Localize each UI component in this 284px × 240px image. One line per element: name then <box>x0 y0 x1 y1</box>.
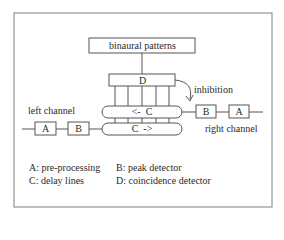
right-a-label: A <box>229 106 249 117</box>
binaural-patterns-label: binaural patterns <box>89 40 196 51</box>
legend-item-d: D: coincidence detector <box>116 175 211 186</box>
right-b-label: B <box>196 106 216 117</box>
delay-line-top-label: <- C <box>102 106 182 117</box>
legend-item-a: A: pre-processing <box>29 162 100 173</box>
right-channel-label: right channel <box>205 123 257 134</box>
legend-item-c: C: delay lines <box>29 175 84 186</box>
inhibition-label: inhibition <box>194 84 233 95</box>
coincidence-detector-label: D <box>109 75 176 86</box>
left-a-label: A <box>35 123 56 134</box>
left-b-label: B <box>68 123 89 134</box>
legend-item-b: B: peak detector <box>116 162 182 173</box>
inhibition-arrow <box>175 80 191 99</box>
left-channel-label: left channel <box>28 105 75 116</box>
delay-line-bottom-label: C -> <box>102 123 182 134</box>
